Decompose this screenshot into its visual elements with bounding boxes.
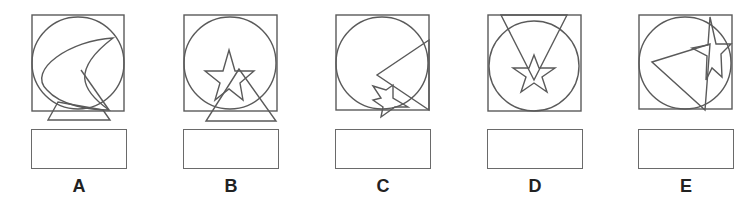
circle-shape <box>32 17 124 109</box>
figure-shapes <box>652 17 731 110</box>
option-label: D <box>487 176 583 197</box>
option-figure <box>335 10 445 126</box>
figure-shape-1 <box>513 55 555 92</box>
option-label: A <box>31 176 127 197</box>
answer-box-e[interactable] <box>638 129 734 169</box>
circle-shape <box>489 21 579 111</box>
option-label: C <box>335 176 431 197</box>
answer-box-b[interactable] <box>183 129 279 169</box>
option-panel-c: C <box>335 0 445 212</box>
figure-shape-1 <box>652 44 710 110</box>
figure-shapes <box>501 15 567 92</box>
figure-shape-0 <box>42 38 113 110</box>
option-figure <box>487 10 597 126</box>
figure-shape-0 <box>501 15 567 80</box>
circle-shape <box>336 17 428 109</box>
option-label: E <box>638 176 734 197</box>
figure-shape-1 <box>81 70 109 110</box>
option-panel-d: D <box>487 0 597 212</box>
answer-box-a[interactable] <box>31 129 127 169</box>
answer-box-d[interactable] <box>487 129 583 169</box>
figure-shapes <box>42 38 113 120</box>
option-figure <box>31 10 141 126</box>
figure-shape-0 <box>377 40 429 110</box>
option-figure <box>638 10 748 126</box>
figure-shape-0 <box>205 50 254 100</box>
option-panel-e: E <box>638 0 748 212</box>
figure-shape-1 <box>373 85 408 117</box>
option-label: B <box>183 176 279 197</box>
answer-box-c[interactable] <box>335 129 431 169</box>
option-panel-b: B <box>183 0 293 212</box>
option-panel-a: A <box>31 0 141 212</box>
option-figure <box>183 10 293 126</box>
circle-shape <box>184 17 276 109</box>
